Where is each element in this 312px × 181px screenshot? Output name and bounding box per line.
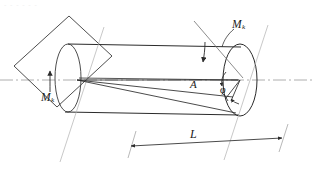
twist-angle-arrow-lower — [231, 99, 239, 104]
shaft-left-end-ellipse — [55, 44, 81, 112]
moment-right-leader — [222, 29, 234, 47]
wall-support-plate — [14, 16, 112, 107]
moment-right-subscript: k — [242, 23, 245, 31]
moment-left-label: Mk — [41, 92, 54, 104]
moment-left-subscript: k — [51, 96, 54, 104]
dimension-extension-left — [128, 131, 136, 158]
length-dimension-label: L — [190, 128, 197, 140]
twist-angle-label: φ — [220, 85, 226, 95]
moment-left-symbol: M — [41, 91, 51, 103]
section-plane-guide-left — [60, 27, 104, 162]
dimension-line-length — [131, 138, 282, 146]
moment-right-arrow — [203, 42, 205, 62]
shaft-bottom-generator — [65, 112, 239, 115]
twist-line-lower — [77, 80, 236, 113]
twist-line-middle — [77, 80, 233, 97]
torsion-shaft-figure: - - - - - - — [0, 0, 312, 181]
point-a-label: A — [190, 79, 197, 90]
moment-right-label: Mk — [232, 19, 245, 31]
moment-right-symbol: M — [232, 18, 242, 30]
